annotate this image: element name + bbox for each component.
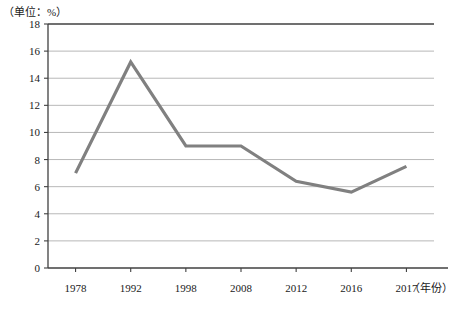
x-tick-label: 2016 — [340, 282, 363, 294]
data-series-line — [76, 62, 407, 192]
line-chart: （单位：%） 024681012141618 19781992199820082… — [0, 0, 455, 309]
x-tick-label: 2008 — [230, 282, 253, 294]
x-tick-labels: 1978199219982008201220162017 — [65, 282, 418, 294]
y-tick-label: 14 — [29, 72, 41, 84]
y-tick-label: 10 — [29, 126, 41, 138]
x-axis-caption: （年份） — [409, 281, 453, 294]
x-tick-label: 2012 — [285, 282, 307, 294]
y-tick-label: 2 — [35, 235, 41, 247]
y-tick-label: 12 — [29, 99, 40, 111]
y-tick-label: 16 — [29, 45, 41, 57]
y-tick-label: 6 — [35, 181, 41, 193]
x-tick-label: 1978 — [65, 282, 88, 294]
y-tick-label: 4 — [35, 208, 41, 220]
y-tick-label: 18 — [29, 18, 41, 30]
x-tick-label: 1998 — [175, 282, 198, 294]
y-tick-label: 8 — [35, 154, 41, 166]
chart-plot-area: 024681012141618 197819921998200820122016… — [0, 0, 455, 309]
y-tick-label: 0 — [35, 262, 41, 274]
gridlines — [48, 24, 434, 241]
x-tick-label: 1992 — [120, 282, 142, 294]
y-tick-labels: 024681012141618 — [29, 18, 41, 274]
